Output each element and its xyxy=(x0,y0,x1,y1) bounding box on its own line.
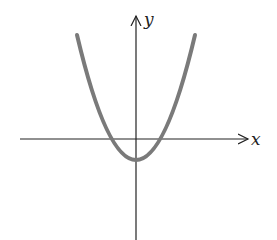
graph-canvas: y x xyxy=(0,0,277,240)
y-axis-label: y xyxy=(143,9,154,29)
x-axis-label: x xyxy=(251,129,261,149)
